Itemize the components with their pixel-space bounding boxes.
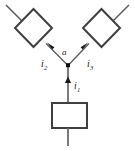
- current-label-i2-subscript: 2: [44, 64, 47, 71]
- current-label-i3: i3: [87, 59, 93, 69]
- current-arrow-i1: [65, 77, 71, 84]
- diamond-element-left: [15, 9, 52, 47]
- caption-strip: [0, 142, 135, 151]
- current-label-i2: i2: [41, 59, 47, 69]
- left-element-upper-lead: [6, 5, 22, 21]
- junction-node-a: [66, 63, 70, 67]
- current-label-i3-subscript: 3: [90, 64, 93, 71]
- square-element-bottom: [52, 103, 87, 128]
- current-label-i1: i1: [74, 81, 80, 91]
- current-label-i1-subscript: 1: [77, 86, 80, 93]
- right-element-upper-lead: [114, 5, 130, 21]
- circuit-diagram-canvas: [0, 0, 135, 151]
- node-label-a-text: a: [62, 47, 67, 57]
- node-label-a: a: [62, 48, 67, 57]
- diamond-element-right: [83, 9, 120, 47]
- branch-wire-right: [69, 44, 90, 66]
- circuit-figure: a i2 i3 i1: [0, 0, 135, 151]
